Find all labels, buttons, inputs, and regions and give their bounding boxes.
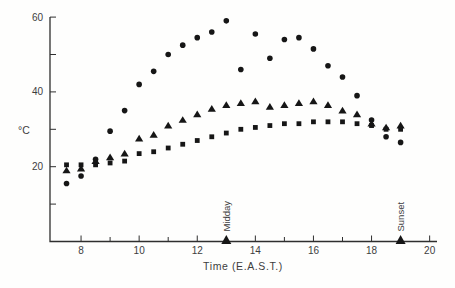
- point-squares: [180, 142, 185, 147]
- point-triangles: [121, 150, 129, 157]
- point-squares: [224, 131, 229, 136]
- annotation-label-midday: Midday: [221, 201, 232, 232]
- y-axis-unit-label: °C: [18, 124, 30, 136]
- point-triangles: [309, 97, 317, 104]
- x-axis-tick-label: 10: [134, 245, 146, 256]
- point-triangles: [324, 101, 332, 108]
- point-squares: [108, 161, 113, 166]
- point-circles: [253, 31, 259, 37]
- point-circles: [267, 55, 273, 61]
- point-triangles: [135, 135, 143, 142]
- point-triangles: [164, 122, 172, 129]
- point-circles: [398, 140, 404, 146]
- point-circles: [107, 128, 113, 134]
- point-squares: [151, 149, 156, 154]
- point-triangles: [193, 111, 201, 118]
- point-circles: [282, 37, 288, 43]
- point-triangles: [295, 99, 303, 106]
- x-axis-tick-label: 8: [78, 245, 84, 256]
- x-axis-tick-label: 20: [424, 245, 436, 256]
- point-triangles: [179, 116, 187, 123]
- annotation-marker-midday: [221, 235, 231, 244]
- annotation-marker-sunset: [396, 235, 406, 244]
- point-circles: [209, 29, 215, 35]
- x-axis-tick-label: 18: [366, 245, 378, 256]
- point-circles: [165, 52, 171, 58]
- point-circles: [180, 42, 186, 48]
- point-squares: [166, 146, 171, 151]
- point-squares: [238, 127, 243, 132]
- point-circles: [340, 74, 346, 80]
- point-circles: [325, 63, 331, 69]
- point-triangles: [237, 99, 245, 106]
- y-axis-tick-label: 20: [32, 161, 44, 172]
- point-squares: [64, 162, 69, 167]
- point-squares: [137, 151, 142, 156]
- y-axis-tick-label: 40: [32, 86, 44, 97]
- x-axis-tick-label: 14: [250, 245, 262, 256]
- point-squares: [340, 119, 345, 124]
- point-circles: [194, 35, 200, 41]
- point-circles: [151, 69, 157, 75]
- point-squares: [326, 119, 331, 124]
- point-squares: [209, 134, 214, 139]
- point-triangles: [266, 103, 274, 110]
- point-circles: [296, 35, 302, 41]
- point-circles: [311, 46, 317, 52]
- figure-canvas: °C Time (E.A.S.T.) 2040608101214161820Mi…: [0, 0, 455, 288]
- point-squares: [122, 159, 127, 164]
- point-squares: [195, 138, 200, 143]
- point-circles: [64, 181, 70, 187]
- point-triangles: [280, 101, 288, 108]
- x-axis-tick-label: 16: [308, 245, 320, 256]
- point-triangles: [353, 111, 361, 118]
- point-circles: [224, 18, 230, 24]
- point-circles: [354, 93, 360, 99]
- point-circles: [78, 173, 84, 179]
- point-squares: [355, 121, 360, 126]
- point-triangles: [338, 107, 346, 114]
- point-squares: [384, 127, 389, 132]
- point-circles: [238, 67, 244, 73]
- x-axis-tick-label: 12: [192, 245, 204, 256]
- point-triangles: [251, 97, 259, 104]
- point-triangles: [106, 154, 114, 161]
- x-axis-title: Time (E.A.S.T.): [203, 260, 283, 272]
- chart-svg: °C Time (E.A.S.T.) 2040608101214161820Mi…: [0, 0, 455, 288]
- y-axis-tick-label: 60: [32, 12, 44, 23]
- point-circles: [383, 134, 389, 140]
- point-triangles: [222, 101, 230, 108]
- point-squares: [311, 119, 316, 124]
- annotation-label-sunset: Sunset: [395, 202, 406, 232]
- point-triangles: [208, 105, 216, 112]
- point-squares: [297, 121, 302, 126]
- point-squares: [93, 162, 98, 167]
- point-circles: [122, 108, 128, 114]
- point-squares: [369, 123, 374, 128]
- point-circles: [136, 82, 142, 88]
- point-triangles: [150, 131, 158, 138]
- point-squares: [282, 121, 287, 126]
- point-squares: [253, 125, 258, 130]
- point-squares: [79, 162, 84, 167]
- point-squares: [398, 127, 403, 132]
- point-squares: [267, 123, 272, 128]
- point-triangles: [62, 167, 70, 174]
